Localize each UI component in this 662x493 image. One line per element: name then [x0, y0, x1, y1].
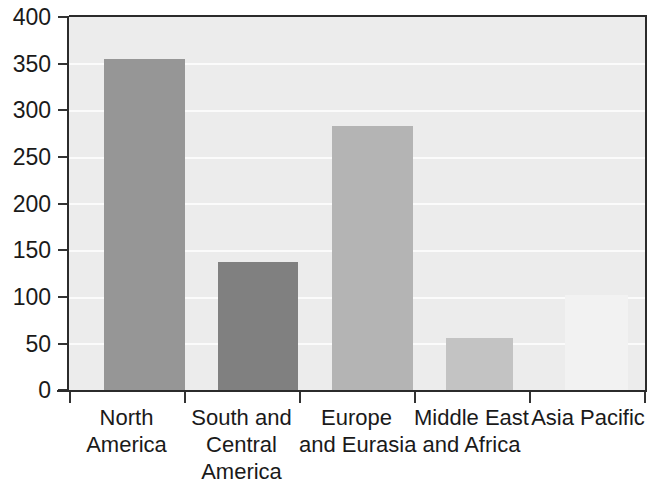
- plot-area: [69, 17, 645, 390]
- x-label-line: America: [184, 458, 299, 485]
- x-label-north-america: North America: [69, 404, 184, 458]
- x-label-line: South and: [184, 404, 299, 431]
- x-label-line: Central: [184, 431, 299, 458]
- x-tick-mark-2: [299, 392, 301, 403]
- y-axis: 400 350 300 250 200 150 100 50 0: [0, 0, 69, 400]
- y-tick-label-200: 200: [13, 193, 51, 216]
- x-tick-mark-4: [529, 392, 531, 403]
- x-axis-labels: North America South and Central America …: [69, 404, 645, 493]
- x-label-line: and Africa: [414, 431, 529, 458]
- x-label-line: Middle East: [414, 404, 529, 431]
- y-tick-label-100: 100: [13, 286, 51, 309]
- bars-layer: [69, 17, 645, 390]
- x-label-line: America: [69, 431, 184, 458]
- bar-south-and-central-america[interactable]: [218, 262, 298, 390]
- y-tick-label-50: 50: [25, 333, 51, 356]
- bar-middle-east-and-africa[interactable]: [446, 338, 513, 390]
- y-tick-label-400: 400: [13, 6, 51, 29]
- x-tick-mark-0: [69, 392, 71, 403]
- bar-asia-pacific[interactable]: [565, 295, 628, 390]
- x-label-europe-and-eurasia: Europe and Eurasia: [299, 404, 414, 458]
- x-label-line: Asia Pacific: [529, 404, 647, 431]
- x-label-line: North: [69, 404, 184, 431]
- bar-chart: 400 350 300 250 200 150 100 50 0: [0, 0, 662, 493]
- x-axis-line: [57, 390, 647, 392]
- bar-europe-and-eurasia[interactable]: [332, 126, 413, 390]
- x-label-asia-pacific: Asia Pacific: [529, 404, 647, 431]
- x-tick-mark-1: [184, 392, 186, 403]
- y-tick-label-350: 350: [13, 53, 51, 76]
- x-tick-mark-5: [644, 392, 646, 403]
- y-tick-label-150: 150: [13, 239, 51, 262]
- bar-north-america[interactable]: [104, 59, 185, 390]
- y-tick-label-300: 300: [13, 99, 51, 122]
- y-tick-label-250: 250: [13, 146, 51, 169]
- x-label-south-and-central-america: South and Central America: [184, 404, 299, 485]
- plot-border-right: [645, 16, 647, 391]
- x-tick-mark-3: [414, 392, 416, 403]
- x-label-line: Europe: [299, 404, 414, 431]
- x-label-middle-east-and-africa: Middle East and Africa: [414, 404, 529, 458]
- y-tick-label-0: 0: [38, 379, 51, 402]
- x-label-line: and Eurasia: [299, 431, 414, 458]
